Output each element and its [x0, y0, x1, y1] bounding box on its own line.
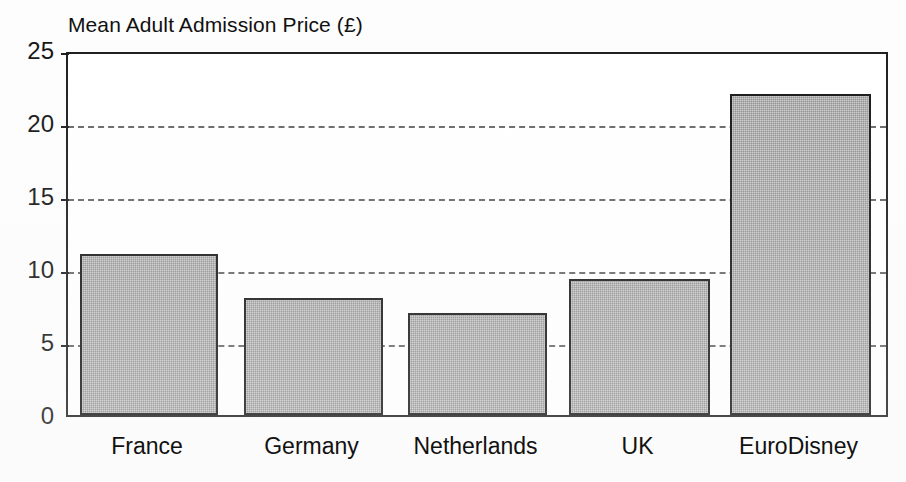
y-axis-label: 20: [8, 112, 54, 136]
y-axis-label: 15: [8, 185, 54, 209]
y-axis-label: 10: [8, 258, 54, 282]
chart-title: Mean Adult Admission Price (£): [68, 12, 363, 38]
bar: [569, 279, 710, 415]
y-axis-tick: [61, 345, 69, 347]
y-axis-label: 5: [8, 331, 54, 355]
y-axis-label: 25: [8, 39, 54, 63]
y-axis-tick: [61, 272, 69, 274]
y-axis-tick: [61, 199, 69, 201]
bar-chart: Mean Adult Admission Price (£) 051015202…: [0, 0, 906, 482]
y-axis-tick: [61, 126, 69, 128]
bar: [730, 94, 871, 415]
x-axis-label: EuroDisney: [688, 432, 906, 460]
bar: [408, 313, 547, 415]
y-axis-label: 0: [8, 404, 54, 428]
bar: [244, 298, 383, 415]
y-axis-tick: [61, 53, 69, 55]
plot-area: [66, 52, 888, 417]
bar: [80, 254, 218, 415]
